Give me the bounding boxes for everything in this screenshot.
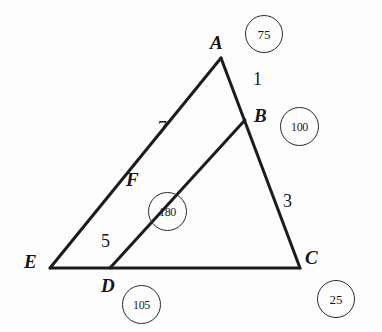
edge-label-1: 1 (253, 70, 262, 88)
vertex-label-D: D (101, 276, 115, 295)
badge-vertex-B: 100 (280, 107, 319, 146)
segment-side-A-C (221, 58, 300, 268)
badge-vertex-D: 105 (122, 285, 161, 324)
vertex-label-C: C (305, 248, 318, 267)
vertex-label-B: B (254, 106, 267, 125)
segments-group (50, 58, 300, 268)
segment-line-E-A (50, 58, 221, 268)
edge-label-7: 7 (158, 119, 167, 137)
vertex-label-E: E (24, 252, 37, 271)
badge-vertex-A: 75 (245, 15, 283, 53)
edge-label-3: 3 (283, 192, 292, 210)
geometry-figure: A B C D E F 1 3 7 5 75 100 180 105 25 (0, 0, 382, 332)
vertex-label-A: A (210, 33, 223, 52)
vertex-label-F: F (126, 170, 139, 189)
edge-label-5: 5 (101, 232, 110, 250)
badge-vertex-F: 180 (148, 192, 187, 231)
badge-vertex-C: 25 (317, 280, 355, 318)
